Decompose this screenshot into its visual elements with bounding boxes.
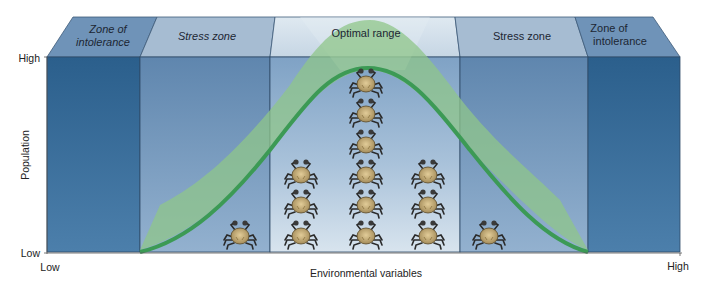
x-axis-low-label: Low [40, 261, 60, 273]
panel-intolerance-low [47, 57, 140, 252]
x-axis-high-label: High [667, 260, 689, 272]
zone-label-stress-high: Stress zone [493, 30, 551, 42]
panel-intolerance-high [588, 57, 680, 252]
zone-label-optimal: Optimal range [331, 27, 400, 39]
tolerance-diagram: Zone of intolerance Stress zone Optimal … [0, 0, 705, 289]
zone-label-intolerance-high-1: Zone of [590, 22, 628, 34]
zone-label-stress-low: Stress zone [178, 30, 236, 42]
y-axis-high-label: High [18, 52, 40, 64]
zone-label-intolerance-high-2: intolerance [593, 35, 647, 47]
zone-label-intolerance-low-2: intolerance [76, 36, 130, 48]
y-axis-low-label: Low [21, 247, 41, 259]
x-axis-label: Environmental variables [310, 267, 422, 279]
zone-label-intolerance-low-1: Zone of [88, 23, 127, 35]
y-axis-label: Population [19, 130, 31, 180]
